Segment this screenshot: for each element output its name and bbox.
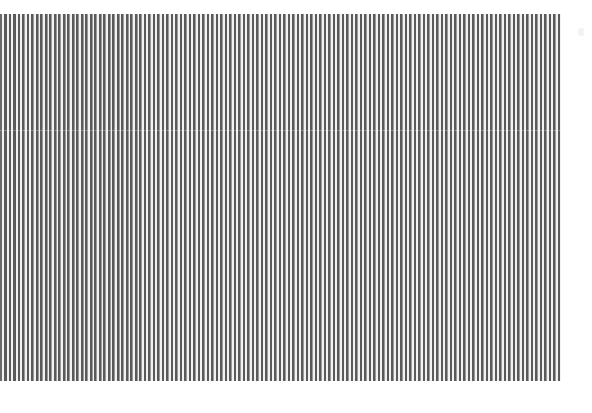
- horizontal-seam-line: [0, 130, 561, 131]
- faint-mark: [578, 28, 584, 36]
- vertical-stripe-grating: [0, 14, 561, 381]
- grating-left-edge: [0, 14, 2, 381]
